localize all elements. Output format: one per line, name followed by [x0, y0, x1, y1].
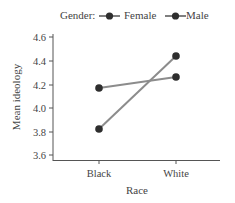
legend-female-label: Female: [124, 9, 156, 21]
legend-male-label: Male: [186, 9, 209, 21]
y-axis: 4.6 4.4 4.2 4.0 3.8 3.6: [33, 32, 53, 161]
data-point: [95, 84, 103, 92]
series-female: [95, 73, 180, 92]
y-tick-label: 3.6: [33, 150, 46, 161]
y-tick-label: 4.2: [33, 80, 46, 91]
data-point: [172, 73, 180, 81]
data-point: [95, 125, 103, 133]
y-tick-label: 4.6: [33, 32, 46, 43]
legend: Gender: Female Male: [60, 9, 209, 21]
legend-male-swatch: [165, 12, 186, 19]
y-tick-label: 3.8: [33, 127, 46, 138]
series-male: [95, 52, 180, 133]
legend-female-swatch: [99, 12, 120, 19]
y-axis-title: Mean ideology: [10, 63, 22, 130]
x-tick-label-black: Black: [87, 168, 112, 179]
interaction-plot: Gender: Female Male Mean ideology 4.6 4.…: [0, 0, 235, 203]
y-tick-label: 4.4: [33, 56, 47, 67]
x-axis-title: Race: [126, 184, 148, 196]
x-axis: Black White: [53, 160, 220, 179]
y-ticks: [49, 37, 53, 155]
x-tick-label-white: White: [163, 168, 189, 179]
data-point: [172, 52, 180, 60]
legend-title: Gender:: [60, 9, 95, 21]
y-tick-label: 4.0: [33, 103, 46, 114]
